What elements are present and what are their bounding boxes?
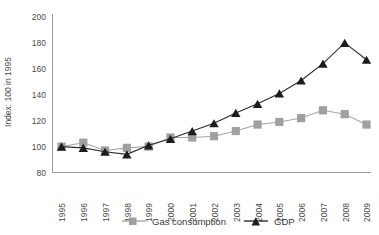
x-tick-label: 1995 bbox=[57, 203, 67, 222]
series-gas-consumption bbox=[57, 106, 370, 154]
data-point-triangle bbox=[275, 89, 284, 97]
x-tick-label: 2007 bbox=[319, 203, 329, 222]
data-point-square bbox=[253, 120, 261, 128]
y-tick-label: 120 bbox=[32, 116, 46, 126]
legend-label-gdp: GDP bbox=[274, 216, 295, 227]
x-tick-label: 2006 bbox=[297, 203, 307, 222]
data-point-square bbox=[319, 106, 327, 114]
data-point-square bbox=[297, 114, 305, 122]
data-point-triangle bbox=[253, 100, 262, 108]
data-point-square bbox=[275, 118, 283, 126]
legend-item-gas-consumption: Gas consumption bbox=[122, 216, 226, 227]
data-point-square bbox=[232, 127, 240, 135]
data-point-triangle bbox=[340, 39, 349, 47]
data-point-triangle bbox=[188, 127, 197, 135]
legend-square-marker-icon bbox=[129, 218, 137, 226]
data-point-triangle bbox=[209, 119, 218, 127]
data-point-square bbox=[362, 120, 370, 128]
y-tick-label: 180 bbox=[32, 38, 46, 48]
x-tick-label: 2008 bbox=[341, 203, 351, 222]
y-tick-label: 80 bbox=[37, 168, 47, 178]
series-gdp bbox=[57, 39, 371, 159]
x-tick-label: 2009 bbox=[362, 203, 372, 222]
y-axis-tick-labels: 200 180 160 140 120 100 80 bbox=[32, 12, 46, 178]
data-point-square bbox=[341, 110, 349, 118]
x-tick-label: 1997 bbox=[101, 203, 111, 222]
y-tick-label: 160 bbox=[32, 64, 46, 74]
y-axis-label: Index: 100 in 1995 bbox=[3, 57, 13, 127]
series-line bbox=[62, 110, 367, 150]
y-tick-label: 100 bbox=[32, 142, 46, 152]
legend-label-gas-consumption: Gas consumption bbox=[152, 216, 226, 227]
chart-canvas: Index: 100 in 1995 200 180 160 140 120 1… bbox=[0, 0, 379, 235]
y-tick-label: 200 bbox=[32, 12, 46, 22]
x-tick-label: 1996 bbox=[79, 203, 89, 222]
data-point-triangle bbox=[231, 109, 240, 117]
x-tick-label: 2003 bbox=[232, 203, 242, 222]
y-tick-label: 140 bbox=[32, 90, 46, 100]
series-layer bbox=[57, 39, 371, 159]
legend-item-gdp: GDP bbox=[244, 216, 295, 227]
data-point-square bbox=[210, 132, 218, 140]
gas-consumption-gdp-index-chart: Index: 100 in 1995 200 180 160 140 120 1… bbox=[0, 0, 379, 235]
